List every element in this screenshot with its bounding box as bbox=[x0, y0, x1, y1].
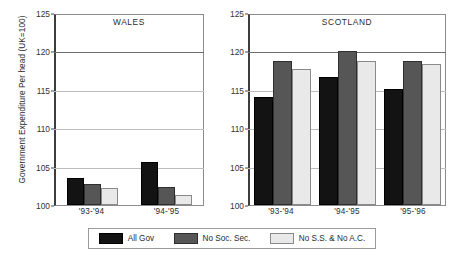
bar bbox=[357, 61, 376, 205]
legend-item: All Gov bbox=[99, 233, 154, 244]
panel-wales: WALES 100105110115120125 '93-'94'94-'95 bbox=[54, 14, 204, 206]
y-tick-label-120: 120 bbox=[222, 47, 244, 57]
bar-group bbox=[250, 15, 315, 205]
chart-legend: All GovNo Soc. Sec.No S.S. & No A.C. bbox=[88, 228, 376, 249]
legend-label: All Gov bbox=[128, 234, 154, 243]
bar bbox=[403, 61, 422, 205]
bar-group bbox=[380, 15, 445, 205]
y-axis-title: Government Expenditure Per head (UK=100) bbox=[18, 0, 27, 200]
y-tick-label-115: 115 bbox=[222, 86, 244, 96]
y-tick-label-125: 125 bbox=[222, 9, 244, 19]
x-tick-label: '95-'96 bbox=[380, 207, 446, 216]
y-tick-label-100: 100 bbox=[222, 201, 244, 211]
legend-swatch-icon bbox=[174, 233, 198, 244]
chart-figure: Government Expenditure Per head (UK=100)… bbox=[0, 0, 460, 263]
y-tick-mark-125 bbox=[51, 14, 54, 15]
bar bbox=[67, 178, 84, 205]
legend-swatch-icon bbox=[99, 233, 123, 244]
legend-label: No S.S. & No A.C. bbox=[299, 234, 365, 243]
panel-scotland: SCOTLAND 100105110115120125 '93-'94'94-'… bbox=[248, 14, 446, 206]
y-tick-label-115: 115 bbox=[28, 86, 50, 96]
x-tick-label: '94-'95 bbox=[314, 207, 380, 216]
bar-groups-scotland bbox=[250, 15, 445, 205]
bar-group bbox=[315, 15, 380, 205]
bar bbox=[175, 195, 192, 205]
y-tick-mark-125 bbox=[245, 14, 248, 15]
bar-group bbox=[130, 15, 204, 205]
bar bbox=[319, 77, 338, 205]
panel-title-wales: WALES bbox=[54, 17, 204, 27]
bar bbox=[101, 188, 118, 205]
bar bbox=[84, 184, 101, 206]
x-tick-label: '94-'95 bbox=[129, 207, 204, 216]
x-tick-label: '93-'94 bbox=[54, 207, 129, 216]
bar bbox=[158, 187, 175, 205]
bar bbox=[384, 89, 403, 205]
y-tick-label-105: 105 bbox=[28, 163, 50, 173]
panel-title-scotland: SCOTLAND bbox=[248, 17, 446, 27]
bar-group bbox=[56, 15, 130, 205]
bar bbox=[254, 97, 273, 205]
y-tick-label-110: 110 bbox=[222, 124, 244, 134]
legend-swatch-icon bbox=[270, 233, 294, 244]
legend-item: No Soc. Sec. bbox=[174, 233, 251, 244]
legend-item: No S.S. & No A.C. bbox=[270, 233, 365, 244]
y-tick-label-125: 125 bbox=[28, 9, 50, 19]
x-tick-label: '93-'94 bbox=[248, 207, 314, 216]
x-axis-ticks-wales: '93-'94'94-'95 bbox=[54, 207, 204, 216]
bar bbox=[292, 69, 311, 205]
bar bbox=[422, 64, 441, 205]
legend-label: No Soc. Sec. bbox=[203, 234, 251, 243]
bar bbox=[273, 61, 292, 205]
bar bbox=[141, 162, 158, 205]
y-tick-label-105: 105 bbox=[222, 163, 244, 173]
y-tick-label-110: 110 bbox=[28, 124, 50, 134]
x-axis-ticks-scotland: '93-'94'94-'95'95-'96 bbox=[248, 207, 446, 216]
bar-groups-wales bbox=[56, 15, 203, 205]
bar bbox=[338, 51, 357, 205]
y-tick-label-100: 100 bbox=[28, 201, 50, 211]
y-tick-label-120: 120 bbox=[28, 47, 50, 57]
